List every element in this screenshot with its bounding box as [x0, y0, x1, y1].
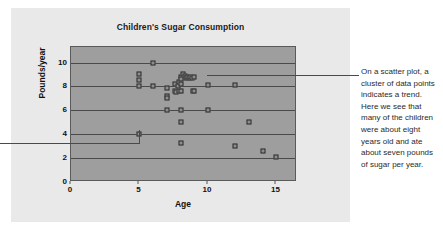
gridline-y-8 [71, 86, 295, 87]
leader-line-right [207, 75, 359, 76]
leader-line-left-horizontal [0, 143, 140, 144]
data-point [233, 144, 238, 149]
chart-panel: Children's Sugar Consumption 0246810 051… [11, 8, 350, 222]
y-tick-label-8: 8 [63, 81, 67, 90]
x-axis-label: Age [70, 199, 296, 209]
data-point [164, 108, 169, 113]
data-point [260, 148, 265, 153]
data-point [137, 72, 142, 77]
data-point [247, 120, 252, 125]
y-tick-label-2: 2 [63, 153, 67, 162]
x-tick-label-10: 10 [203, 185, 212, 194]
data-point [274, 154, 279, 159]
y-tick-label-0: 0 [63, 177, 67, 186]
x-tick-label-0: 0 [68, 185, 72, 194]
annotation-text: On a scatter plot, a cluster of data poi… [361, 66, 441, 170]
gridline-y-4 [71, 134, 295, 135]
data-point [205, 83, 210, 88]
y-tick-label-6: 6 [63, 105, 67, 114]
x-tick-mark-0 [70, 181, 71, 184]
x-tick-label-15: 15 [271, 185, 280, 194]
y-axis-label: Pounds/year [37, 28, 47, 118]
data-point [151, 84, 156, 89]
data-point [192, 89, 197, 94]
plot-area [70, 46, 296, 181]
x-tick-mark-5 [138, 181, 139, 184]
x-tick-label-5: 5 [136, 185, 140, 194]
data-point [164, 85, 169, 90]
data-point [164, 96, 169, 101]
data-point [137, 84, 142, 89]
leader-line-left-vertical [139, 130, 140, 144]
data-point [178, 89, 183, 94]
y-tick-label-10: 10 [58, 57, 67, 66]
data-point [178, 108, 183, 113]
data-point [178, 140, 183, 145]
x-axis-ticks: 051015 [70, 185, 296, 197]
data-point [178, 120, 183, 125]
gridline-y-2 [71, 158, 295, 159]
figure-root: Children's Sugar Consumption 0246810 051… [0, 0, 443, 225]
data-point [137, 78, 142, 83]
gridline-y-10 [71, 63, 295, 64]
x-tick-mark-15 [275, 181, 276, 184]
chart-title: Children's Sugar Consumption [11, 22, 350, 32]
data-point [192, 74, 197, 79]
data-point [151, 60, 156, 65]
y-tick-label-4: 4 [63, 129, 67, 138]
data-point [205, 108, 210, 113]
data-point [233, 83, 238, 88]
x-tick-mark-10 [206, 181, 207, 184]
data-point [178, 82, 183, 87]
